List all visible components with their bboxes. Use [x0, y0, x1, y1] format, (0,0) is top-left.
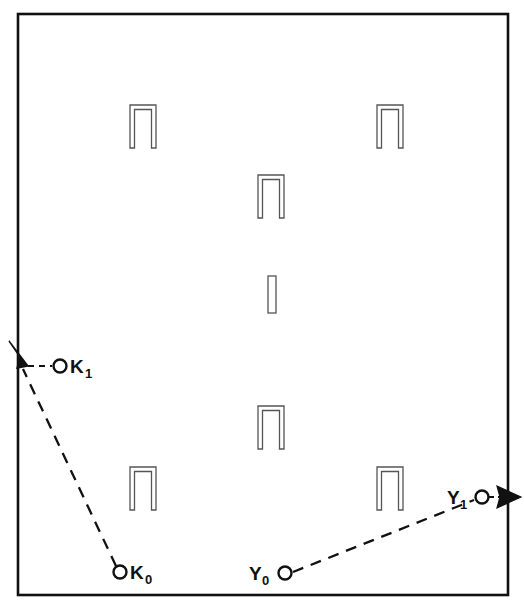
point-k0-subscript: 0	[145, 572, 152, 587]
point-y0-label: Y	[249, 563, 262, 584]
point-k1-label: K	[70, 356, 84, 377]
point-y1-label: Y	[447, 487, 460, 508]
point-k1-subscript: 1	[85, 366, 92, 381]
point-k1-marker[interactable]	[54, 360, 67, 373]
technical-diagram: K 1 K 0 Y 0 Y 1	[0, 0, 524, 608]
diagram-canvas: K 1 K 0 Y 0 Y 1	[0, 0, 524, 608]
point-y1-subscript: 1	[460, 497, 467, 512]
staple-center-bar	[268, 276, 276, 313]
point-k0-marker[interactable]	[114, 566, 127, 579]
point-y1-marker[interactable]	[476, 491, 489, 504]
outer-frame-border	[18, 14, 508, 595]
point-y0-subscript: 0	[262, 573, 269, 588]
point-y0-marker[interactable]	[279, 567, 292, 580]
point-k0-label: K	[130, 562, 144, 583]
